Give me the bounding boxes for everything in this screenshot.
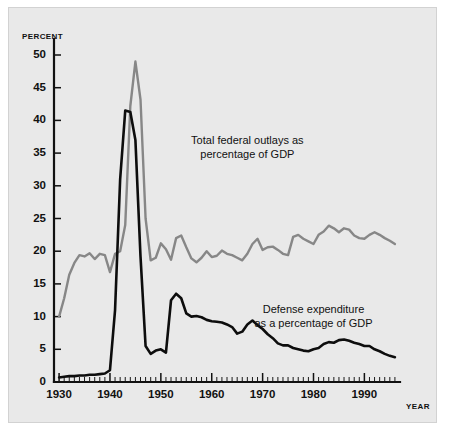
x-axis-tick-label: 1940 (97, 388, 123, 400)
defense-label: Defense expenditureas a percentage of GD… (254, 303, 372, 329)
chart-annotations: Total federal outlays aspercentage of GD… (191, 134, 372, 329)
chart-figure: 05101520253035404550 1930194019501960197… (0, 0, 452, 437)
y-axis-tick-label: 40 (33, 113, 46, 125)
data-series-group (59, 62, 395, 378)
x-axis-tick-label: 1970 (250, 388, 276, 400)
y-axis-tick-label: 5 (40, 342, 47, 354)
y-axis-tick-label: 25 (33, 212, 46, 224)
x-axis-tick-label: 1980 (301, 388, 327, 400)
y-axis-tick-label: 35 (33, 146, 46, 158)
annotation-line: Defense expenditure (263, 303, 365, 315)
y-axis-tick-label: 20 (33, 244, 46, 256)
chart-plot-area: 05101520253035404550 1930194019501960197… (0, 0, 452, 437)
y-axis-tick-label: 50 (33, 48, 46, 60)
x-axis-tick-label: 1990 (352, 388, 378, 400)
x-axis-tick-label: 1960 (199, 388, 225, 400)
axis-lines (54, 39, 400, 382)
annotation-line: percentage of GDP (200, 148, 294, 160)
annotation-line: as a percentage of GDP (254, 317, 372, 329)
y-axis-tick-label: 15 (33, 277, 46, 289)
series-line-total-outlays (59, 62, 395, 317)
y-axis-tick-label: 0 (40, 375, 46, 387)
x-axis-title: YEAR (406, 402, 430, 411)
x-axis-tick-label: 1950 (148, 388, 174, 400)
total-outlays-label: Total federal outlays aspercentage of GD… (191, 134, 304, 160)
x-axis-minor-ticks (59, 373, 395, 382)
annotation-line: Total federal outlays as (191, 134, 304, 146)
y-axis-title: PERCENT (22, 32, 63, 41)
x-axis-tick-label: 1930 (46, 388, 72, 400)
x-axis-tick-labels: 1930194019501960197019801990 (46, 388, 377, 400)
y-axis-tick-label: 30 (33, 179, 46, 191)
y-axis-tick-label: 45 (33, 81, 46, 93)
y-axis-tick-labels: 05101520253035404550 (33, 48, 46, 387)
y-axis-tick-label: 10 (33, 310, 46, 322)
